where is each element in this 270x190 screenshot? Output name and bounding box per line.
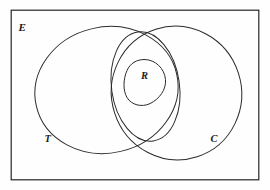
label-set-t: T <box>45 133 52 144</box>
label-set-r: R <box>140 70 148 81</box>
label-set-c: C <box>211 133 219 144</box>
universe-frame-rect <box>11 10 259 180</box>
venn-diagram-figure: E T C R <box>0 0 270 190</box>
venn-diagram-canvas: E T C R <box>0 0 270 190</box>
label-universe-e: E <box>18 21 26 33</box>
